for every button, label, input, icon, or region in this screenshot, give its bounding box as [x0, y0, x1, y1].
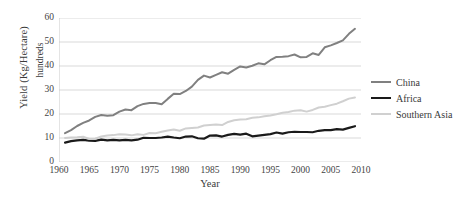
- legend-item-southern-asia[interactable]: Southern Asia: [371, 106, 463, 122]
- y-tick-label: 60: [28, 13, 54, 23]
- chart-legend: ChinaAfricaSouthern Asia: [371, 74, 463, 122]
- y-tick-label: 10: [28, 133, 54, 143]
- x-tick-label: 2010: [341, 166, 381, 176]
- legend-line-swatch: [371, 97, 391, 99]
- legend-label: Africa: [396, 93, 422, 104]
- legend-item-china[interactable]: China: [371, 74, 463, 90]
- yield-line-chart: Yield (Kg/Hectare) hundreds 010203040506…: [0, 0, 463, 198]
- legend-line-swatch: [371, 113, 391, 115]
- legend-item-africa[interactable]: Africa: [371, 90, 463, 106]
- plot-svg: [59, 18, 361, 162]
- x-axis-title: Year: [55, 178, 365, 189]
- series-line-africa: [65, 126, 355, 142]
- y-tick-label: 50: [28, 37, 54, 47]
- legend-label: Southern Asia: [396, 109, 452, 120]
- y-axis-title: Yield (Kg/Hectare): [18, 0, 29, 143]
- legend-line-swatch: [371, 81, 391, 83]
- series-line-china: [65, 29, 355, 133]
- plot-area: [59, 18, 361, 162]
- y-tick-label: 40: [28, 61, 54, 71]
- y-tick-label: 20: [28, 109, 54, 119]
- y-tick-label: 30: [28, 85, 54, 95]
- legend-label: China: [396, 77, 420, 88]
